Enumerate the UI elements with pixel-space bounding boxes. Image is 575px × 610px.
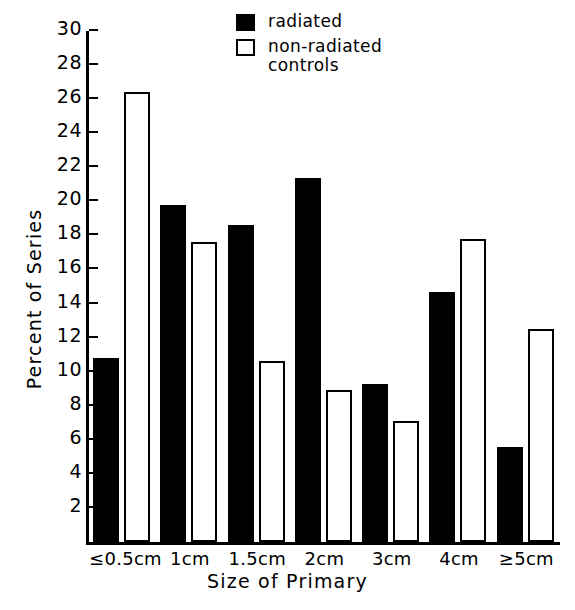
bar-non-radiated-controls: [460, 239, 486, 542]
x-category-label: ≥5cm: [493, 550, 560, 568]
y-tick-label: 16: [57, 257, 82, 276]
bar-non-radiated-controls: [528, 329, 554, 542]
bar-radiated: [160, 205, 186, 542]
plot-area: 24681012141618202224262830 ≤0.5cm1cm1.5c…: [86, 31, 560, 542]
legend-label-radiated: radiated: [268, 12, 342, 31]
bar-radiated: [362, 384, 388, 542]
y-tick-label: 10: [57, 360, 82, 379]
bar-radiated: [497, 447, 523, 542]
y-tick-label: 6: [69, 428, 82, 447]
bar-non-radiated-controls: [259, 361, 285, 542]
bar-group: [358, 31, 425, 542]
x-axis-title: Size of Primary: [0, 570, 575, 592]
bar-group: [291, 31, 358, 542]
y-tick-label: 14: [57, 292, 82, 311]
y-tick-label: 4: [69, 462, 82, 481]
y-tick-label: 30: [57, 19, 82, 38]
y-tick-label: 18: [57, 223, 82, 242]
y-tick-label: 28: [57, 53, 82, 72]
bar-radiated: [93, 358, 119, 542]
bar-chart-figure: Percent of Series radiated non-radiated …: [0, 0, 575, 610]
y-tick-label: 26: [57, 87, 82, 106]
y-axis-title: Percent of Series: [23, 179, 45, 419]
bar-non-radiated-controls: [124, 92, 150, 542]
y-tick-label: 20: [57, 189, 82, 208]
legend-swatch-filled-square-icon: [236, 14, 255, 31]
x-category-label: 3cm: [358, 550, 425, 568]
y-tick-label: 8: [69, 394, 82, 413]
y-tick-label: 12: [57, 326, 82, 345]
bar-group: [156, 31, 223, 542]
y-tick-label: 22: [57, 155, 82, 174]
bar-series-container: [89, 31, 560, 542]
x-category-label: 1cm: [156, 550, 223, 568]
x-category-label: 4cm: [425, 550, 492, 568]
x-category-label: ≤0.5cm: [89, 550, 156, 568]
bar-group: [89, 31, 156, 542]
bar-radiated: [295, 178, 321, 543]
bar-group: [224, 31, 291, 542]
x-category-label: 1.5cm: [224, 550, 291, 568]
y-tick-label: 2: [69, 496, 82, 515]
x-axis-line: [86, 542, 560, 545]
bar-non-radiated-controls: [393, 421, 419, 542]
bar-group: [493, 31, 560, 542]
x-category-label: 2cm: [291, 550, 358, 568]
bar-radiated: [429, 292, 455, 542]
y-tick-label: 24: [57, 121, 82, 140]
bar-non-radiated-controls: [191, 242, 217, 542]
bar-radiated: [228, 225, 254, 542]
bar-non-radiated-controls: [326, 390, 352, 542]
bar-group: [425, 31, 492, 542]
legend-item-radiated: radiated: [236, 12, 476, 31]
